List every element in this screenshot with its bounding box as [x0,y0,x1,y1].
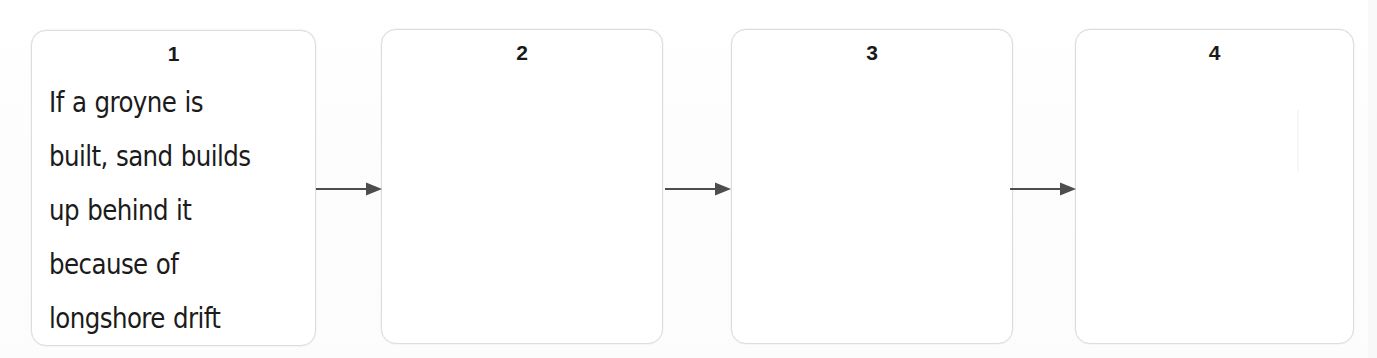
flow-box-2[interactable]: 2 [381,29,663,344]
flow-box-4[interactable]: 4 [1075,29,1354,344]
flow-box-3-number: 3 [732,40,1012,66]
scan-artifact [1368,0,1377,358]
flow-box-1[interactable]: 1 If a groyne is built, sand builds up b… [31,30,316,346]
arrow-right-icon-3 [1010,178,1080,200]
flow-box-2-number: 2 [382,40,662,66]
arrow-right-icon-2 [665,178,735,200]
flow-box-1-text: If a groyne is built, sand builds up beh… [49,75,293,345]
flow-box-3[interactable]: 3 [731,29,1013,344]
flow-box-1-number: 1 [32,41,315,67]
diagram-canvas: 1 If a groyne is built, sand builds up b… [0,0,1377,358]
arrow-right-icon-1 [316,178,386,200]
flow-box-4-number: 4 [1076,40,1353,66]
